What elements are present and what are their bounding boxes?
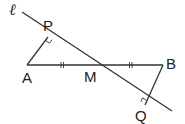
right-angle-mark-q [141, 98, 147, 102]
label-b: B [166, 56, 176, 71]
geometry-diagram: ℓ P A M B Q [0, 0, 185, 124]
label-p: P [43, 18, 53, 33]
label-line-l: ℓ [9, 2, 16, 18]
right-angle-mark-p [46, 40, 53, 44]
segment-ap [27, 37, 48, 65]
label-m: M [84, 69, 97, 84]
label-a: A [22, 70, 32, 85]
diagram-figure [0, 0, 185, 124]
label-q: Q [135, 108, 147, 123]
